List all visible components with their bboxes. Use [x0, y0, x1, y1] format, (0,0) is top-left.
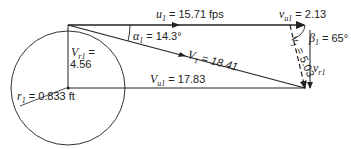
V1-label: V1= 18.41 [186, 47, 240, 75]
u1-mid-arrow-icon [172, 22, 180, 28]
svg-text:V1= 18.41: V1= 18.41 [186, 47, 240, 75]
velocity-triangle-diagram: u1= 15.71 fps vu1= 2.13 α1= 14.3° β1= 65… [0, 0, 351, 149]
Vu1-label: Vu1= 17.83 [150, 72, 205, 88]
Vr1-value: 4.56 [70, 58, 91, 70]
vu1-label: vu1= 2.13 [279, 7, 326, 23]
vr1-label: vr1 [313, 61, 325, 77]
alpha1-label: α1= 14.3° [133, 29, 182, 45]
u1-label: u1= 15.71 fps [156, 7, 224, 23]
alpha1-arc [128, 25, 130, 41]
r1-label: r1= 0.833 ft [17, 89, 75, 105]
beta1-label: β1= 65° [308, 31, 348, 47]
